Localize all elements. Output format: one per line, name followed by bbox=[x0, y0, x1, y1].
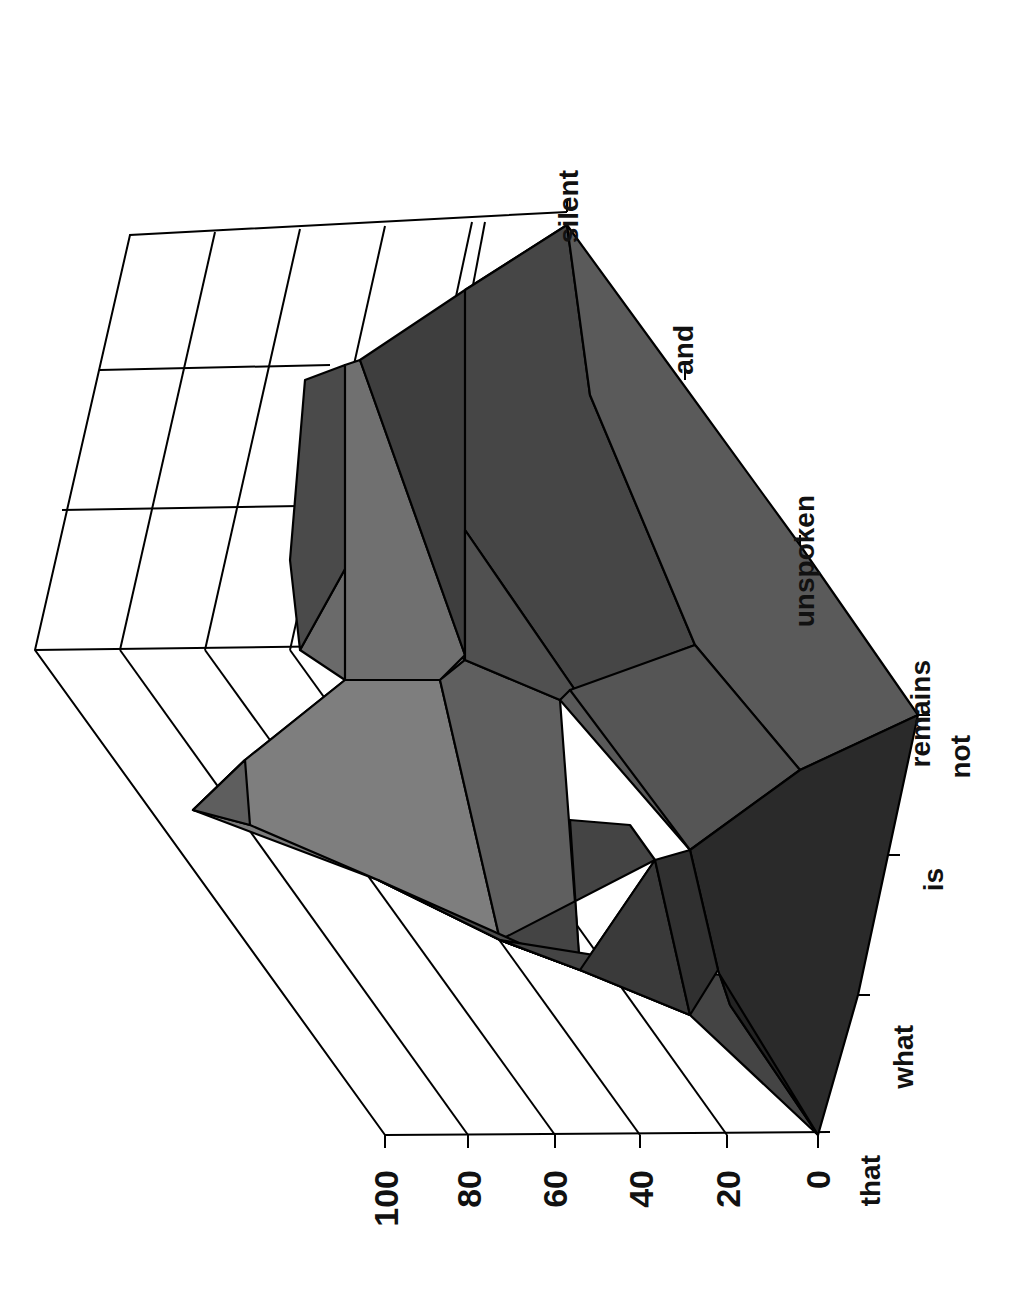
x-label-not: not bbox=[945, 735, 976, 779]
x-label-silent: silent bbox=[553, 170, 584, 243]
x-label-unspoken: unspoken bbox=[789, 495, 820, 627]
surface-chart: 100 80 60 40 20 0 that what is not remai… bbox=[0, 0, 1023, 1304]
surface bbox=[193, 225, 918, 1135]
z-tick-60: 60 bbox=[536, 1170, 574, 1208]
x-label-remains: remains bbox=[905, 660, 936, 767]
x-label-is: is bbox=[918, 868, 949, 891]
z-tick-100: 100 bbox=[367, 1170, 405, 1227]
z-tick-0: 0 bbox=[799, 1170, 837, 1189]
z-tick-20: 20 bbox=[709, 1170, 747, 1208]
x-label-that: that bbox=[855, 1155, 886, 1206]
x-label-what: what bbox=[888, 1025, 919, 1090]
x-label-and: and bbox=[668, 325, 699, 375]
z-tick-80: 80 bbox=[450, 1170, 488, 1208]
z-axis-labels: 100 80 60 40 20 0 bbox=[367, 1170, 837, 1227]
z-tick-40: 40 bbox=[622, 1170, 660, 1208]
